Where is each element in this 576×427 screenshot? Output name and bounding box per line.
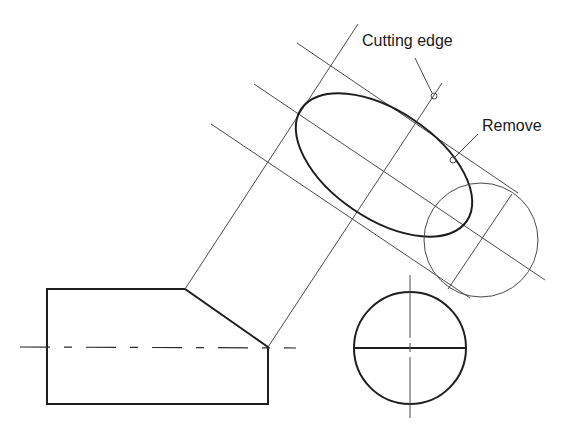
remove-label: Remove <box>482 118 542 134</box>
auxiliary-circle-view <box>424 183 538 297</box>
front-view-outline <box>47 289 268 404</box>
auxiliary-circle-axis <box>448 194 512 289</box>
technical-drawing <box>0 0 576 427</box>
front-view-centerline <box>20 347 296 348</box>
end-view <box>354 275 466 418</box>
cutting-edge-label: Cutting edge <box>362 33 453 49</box>
front-view <box>20 289 296 404</box>
construction-lines <box>211 43 545 298</box>
remove-leader <box>455 134 478 157</box>
construction-line-3 <box>211 124 470 298</box>
auxiliary-ellipse <box>271 64 497 265</box>
projection-lines <box>185 24 442 347</box>
cutting-edge-leader <box>415 58 432 93</box>
